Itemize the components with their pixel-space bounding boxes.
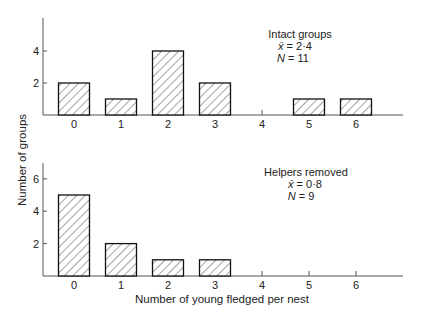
n-symbol: N: [277, 52, 285, 64]
bar-3: [200, 260, 231, 276]
n-value: = 11: [285, 52, 309, 64]
y-ticks: 24: [33, 45, 47, 89]
x-tick-label: 0: [71, 118, 77, 130]
x-tick-label: 1: [118, 118, 124, 130]
x-tick-label: 2: [165, 279, 171, 291]
panel-helpers-removed: 246 0123456 Helpers removed x̄ = 0·8 N =…: [33, 163, 403, 291]
x-tick-label: 2: [165, 118, 171, 130]
x-tick-label: 3: [212, 279, 218, 291]
n-symbol: N: [288, 190, 296, 202]
annotation: Helpers removed x̄ = 0·8 N = 9: [264, 166, 348, 202]
bar-1: [106, 99, 137, 115]
bars: [59, 195, 231, 276]
bar-0: [59, 195, 90, 276]
n-value: = 9: [296, 190, 315, 202]
x-tick-label: 4: [259, 118, 265, 130]
bar-3: [200, 83, 231, 115]
annotation-n: N = 9: [288, 190, 315, 202]
annotation-title: Helpers removed: [264, 166, 348, 178]
x-tick-label: 5: [306, 279, 312, 291]
bar-1: [106, 244, 137, 276]
y-tick-label: 2: [33, 238, 39, 250]
mean-value: = 2·4: [284, 40, 312, 52]
annotation-title: Intact groups: [268, 28, 332, 40]
y-ticks: 246: [33, 173, 47, 250]
x-axis-label: Number of young fledged per nest: [135, 293, 310, 305]
annotation-n: N = 11: [277, 52, 309, 64]
x-tick-label: 6: [353, 279, 359, 291]
histogram-figure: Number of groups 24 0123456 Intact group…: [0, 0, 421, 321]
bar-6: [341, 99, 372, 115]
x-tick-label: 6: [353, 118, 359, 130]
x-tick-label: 3: [212, 118, 218, 130]
x-tick-label: 1: [118, 279, 124, 291]
bar-2: [153, 260, 184, 276]
x-tick-label: 0: [71, 279, 77, 291]
bar-2: [153, 51, 184, 115]
annotation: Intact groups x̄ = 2·4 N = 11: [268, 28, 332, 64]
y-tick-label: 6: [33, 173, 39, 185]
annotation-mean: x̄ = 2·4: [277, 40, 312, 52]
y-tick-label: 4: [33, 45, 39, 57]
mean-value: = 0·8: [294, 178, 322, 190]
annotation-mean: x̄ = 0·8: [287, 178, 322, 190]
x-tick-label: 5: [306, 118, 312, 130]
y-tick-label: 4: [33, 205, 39, 217]
bar-0: [59, 83, 90, 115]
y-axis-label: Number of groups: [16, 114, 28, 206]
x-tick-label: 4: [259, 279, 265, 291]
bars: [59, 51, 372, 115]
panel-intact-groups: 24 0123456 Intact groups x̄ = 2·4 N = 11: [33, 18, 403, 130]
y-tick-label: 2: [33, 77, 39, 89]
bar-5: [294, 99, 325, 115]
